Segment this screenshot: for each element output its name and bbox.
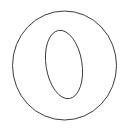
glyph-canvas <box>0 0 129 131</box>
letter-o-outline-drawing <box>0 0 129 131</box>
canvas-background <box>0 0 129 131</box>
